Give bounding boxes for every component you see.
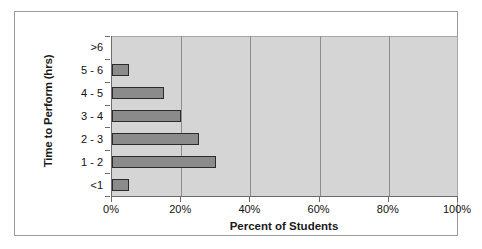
y-axis-tick-label: 3 - 4 — [61, 105, 107, 128]
chart-frame: Time to Perform (hrs) >6 5 - 6 4 - 5 3 -… — [14, 11, 458, 236]
y-axis-tick-label: >6 — [61, 36, 107, 59]
y-axis-tick — [105, 150, 110, 151]
x-axis-tick-label: 100% — [443, 203, 471, 215]
y-axis-tick — [105, 82, 110, 83]
y-axis-tick-label: 4 - 5 — [61, 82, 107, 105]
x-axis-title: Percent of Students — [111, 220, 457, 232]
bar[interactable] — [112, 110, 181, 122]
bar-row — [112, 59, 458, 82]
x-axis-tick-labels: 0%20%40%60%80%100% — [111, 203, 457, 217]
y-axis-tick-label: 1 - 2 — [61, 150, 107, 173]
bar-row — [112, 127, 458, 150]
y-axis-tick-label: 5 - 6 — [61, 59, 107, 82]
x-axis-tick-label: 40% — [238, 203, 260, 215]
x-axis-tick-label: 60% — [308, 203, 330, 215]
x-axis-tick — [388, 197, 389, 202]
bar[interactable] — [112, 179, 129, 191]
y-axis-tick — [105, 196, 110, 197]
y-axis-tick — [105, 59, 110, 60]
x-axis-tick — [249, 197, 250, 202]
plot-inner — [112, 36, 458, 196]
bar-row — [112, 36, 458, 59]
bar[interactable] — [112, 64, 129, 76]
y-axis-tick-labels: >6 5 - 6 4 - 5 3 - 4 2 - 3 1 - 2 <1 — [61, 36, 107, 196]
x-axis-tick — [457, 197, 458, 202]
bar-series — [112, 36, 458, 196]
bar[interactable] — [112, 133, 199, 145]
bar[interactable] — [112, 156, 216, 168]
bar[interactable] — [112, 87, 164, 99]
y-axis-title: Time to Perform (hrs) — [42, 31, 54, 191]
bar-row — [112, 82, 458, 105]
chart-figure: Time to Perform (hrs) >6 5 - 6 4 - 5 3 -… — [0, 0, 482, 249]
x-axis-tick — [180, 197, 181, 202]
y-axis-tick — [105, 173, 110, 174]
y-axis-tick — [105, 36, 110, 37]
x-axis-tick-label: 0% — [103, 203, 119, 215]
bar-row — [112, 105, 458, 128]
x-axis-tick-label: 20% — [169, 203, 191, 215]
x-axis-tick — [111, 197, 112, 202]
y-axis-tick — [105, 105, 110, 106]
bar-row — [112, 173, 458, 196]
y-axis-tick-label: 2 - 3 — [61, 127, 107, 150]
plot-area — [111, 36, 458, 197]
y-axis-tick — [105, 127, 110, 128]
y-axis-tick-label: <1 — [61, 173, 107, 196]
x-axis-tick — [319, 197, 320, 202]
x-axis-tick-label: 80% — [377, 203, 399, 215]
bar-row — [112, 150, 458, 173]
